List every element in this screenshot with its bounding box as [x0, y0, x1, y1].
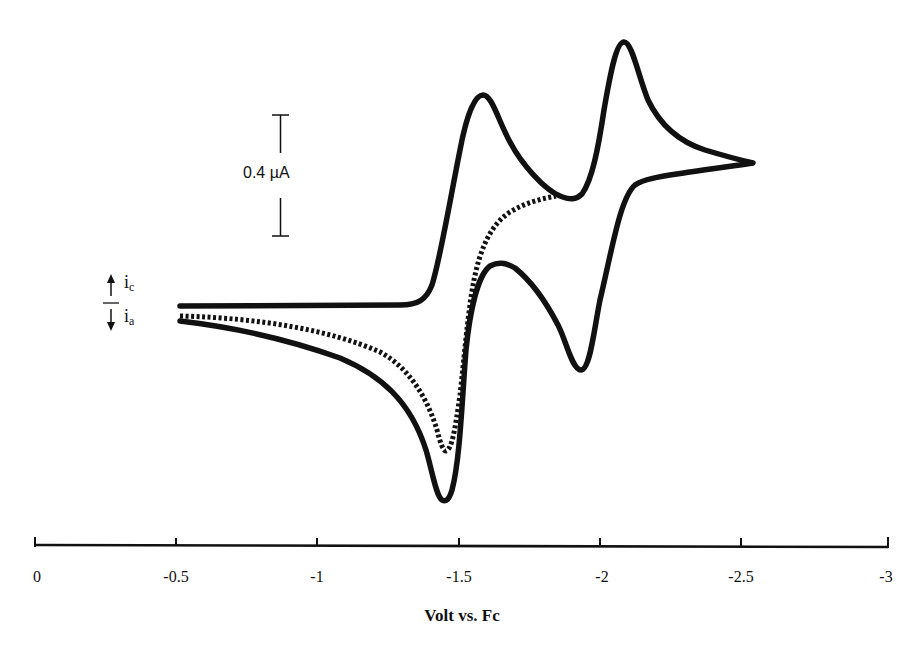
x-axis-title: Volt vs. Fc — [424, 606, 499, 626]
legend-anodic-label: ia — [124, 306, 134, 329]
x-tick-label-neg1.5: -1.5 — [446, 568, 471, 586]
legend-cathodic-label: ic — [124, 272, 134, 295]
current-direction-legend — [103, 274, 119, 331]
partial-scan-curve — [180, 196, 556, 451]
x-tick-label-neg0.5: -0.5 — [163, 568, 188, 586]
x-axis — [35, 537, 888, 548]
legend-cathodic-subscript: c — [129, 280, 134, 294]
cv-plot — [0, 0, 924, 646]
x-tick-label-neg2.5: -2.5 — [728, 568, 753, 586]
x-tick-label-neg2: -2 — [595, 568, 608, 586]
scale-bar-label: 0.4 µA — [243, 164, 290, 182]
legend-anodic-subscript: a — [129, 314, 134, 328]
x-tick-label-0: 0 — [33, 568, 41, 586]
full-scan-curve — [180, 42, 753, 501]
x-tick-label-neg1: -1 — [310, 568, 323, 586]
x-tick-label-neg3: -3 — [879, 568, 892, 586]
